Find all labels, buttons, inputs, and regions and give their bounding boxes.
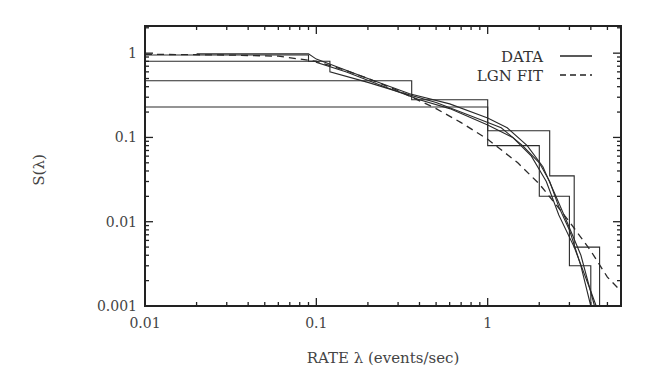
x-axis-title: RATE λ (events/sec) <box>307 349 460 367</box>
data-curve <box>145 61 596 306</box>
y-tick-label: 1 <box>128 45 137 61</box>
x-tick-label: 0.01 <box>129 315 160 331</box>
legend-label-lgn-fit: LGN FIT <box>477 67 543 85</box>
data-curve <box>145 55 591 306</box>
y-tick-label: 0.01 <box>106 214 137 230</box>
y-tick-label: 0.001 <box>97 298 137 314</box>
y-tick-label: 0.1 <box>115 129 137 145</box>
x-tick-label: 0.1 <box>305 315 327 331</box>
legend: DATA LGN FIT <box>477 48 592 85</box>
x-tick-label: 1 <box>483 315 492 331</box>
data-curve <box>145 107 591 306</box>
data-curve <box>145 81 600 306</box>
y-axis-title: S(λ) <box>30 154 48 186</box>
series-layer <box>145 54 621 306</box>
legend-label-data: DATA <box>501 48 543 66</box>
survival-chart: 0.010.110.0010.010.11 RATE λ (events/sec… <box>0 0 653 391</box>
tick-labels: 0.010.110.0010.010.11 <box>97 45 492 331</box>
